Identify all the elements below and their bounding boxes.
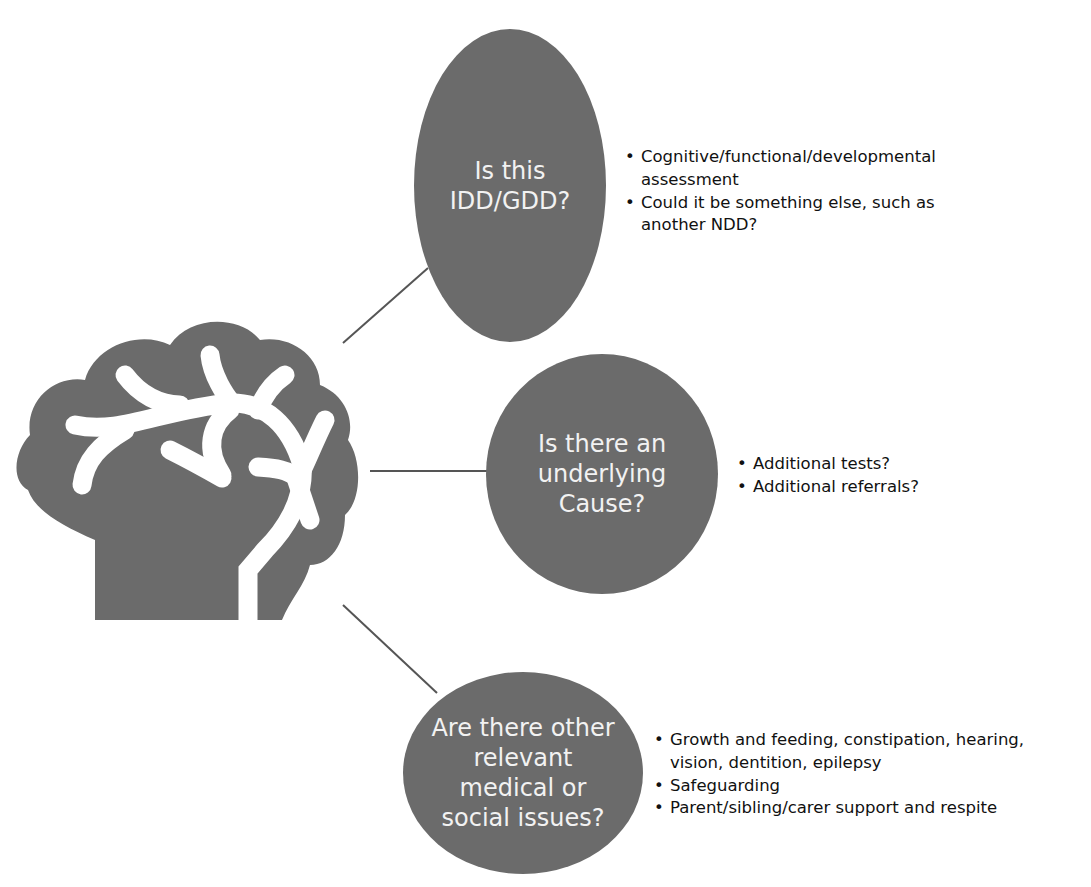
question-line: Is this: [450, 156, 570, 186]
bullet-item: Safeguarding: [652, 775, 1072, 798]
bullet-list-idd-gdd: Cognitive/functional/developmental asses…: [623, 146, 1003, 237]
bullet-item: Additional referrals?: [735, 476, 995, 499]
bullet-list-other-issues: Growth and feeding, constipation, hearin…: [652, 729, 1072, 820]
question-line: Is there an: [538, 429, 666, 459]
question-line: Cause?: [538, 489, 666, 519]
question-line: social issues?: [431, 803, 614, 833]
brain-icon: [0, 300, 380, 640]
question-line: medical or: [431, 773, 614, 803]
question-line: Are there other: [431, 713, 614, 743]
question-line: IDD/GDD?: [450, 186, 570, 216]
bullet-item: Could it be something else, such as anot…: [623, 192, 1003, 238]
bullet-list-underlying-cause: Additional tests? Additional referrals?: [735, 453, 995, 499]
question-bubble-underlying-cause: Is there an underlying Cause?: [486, 354, 718, 594]
bullet-item: Cognitive/functional/developmental asses…: [623, 146, 1003, 192]
question-text: Is there an underlying Cause?: [538, 429, 666, 519]
question-line: relevant: [431, 743, 614, 773]
question-text: Is this IDD/GDD?: [450, 156, 570, 216]
question-text: Are there other relevant medical or soci…: [431, 713, 614, 833]
question-bubble-other-issues: Are there other relevant medical or soci…: [403, 672, 643, 874]
diagram-canvas: Is this IDD/GDD? Cognitive/functional/de…: [0, 0, 1091, 887]
bullet-item: Parent/sibling/carer support and respite: [652, 797, 1072, 820]
bullet-item: Additional tests?: [735, 453, 995, 476]
bullet-item: Growth and feeding, constipation, hearin…: [652, 729, 1072, 775]
question-line: underlying: [538, 459, 666, 489]
question-bubble-idd-gdd: Is this IDD/GDD?: [414, 29, 606, 342]
